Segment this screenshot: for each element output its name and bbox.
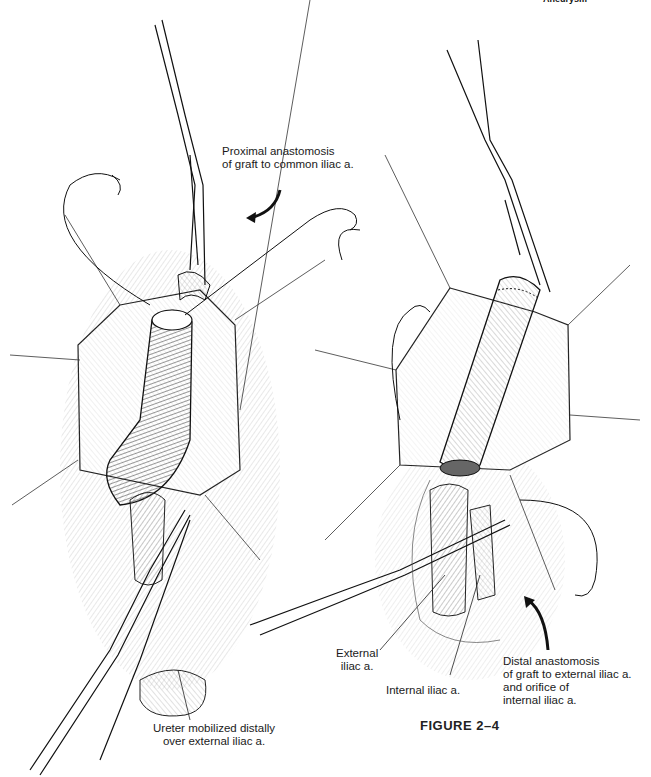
external-iliac-artery xyxy=(430,484,468,616)
label-ureter: Ureter mobilized distally over external … xyxy=(153,722,275,748)
label-external-iliac: External iliac a. xyxy=(336,647,378,673)
ureter xyxy=(140,670,206,716)
right-tissue-shading xyxy=(375,440,565,680)
distal-anastomosis-site xyxy=(440,460,480,476)
label-proximal-anastomosis: Proximal anastomosis of graft to common … xyxy=(222,145,354,171)
figure-caption: FIGURE 2–4 xyxy=(420,718,499,733)
figure-page: Aneurysm xyxy=(0,0,651,777)
left-graft-end xyxy=(152,310,192,330)
label-internal-iliac: Internal iliac a. xyxy=(386,684,460,697)
right-top-clamp xyxy=(447,40,550,292)
label-distal-anastomosis: Distal anastomosis of graft to external … xyxy=(503,655,631,707)
left-panel-drawing xyxy=(10,0,357,775)
left-top-clamp xyxy=(155,20,205,285)
right-panel-drawing xyxy=(250,40,640,680)
